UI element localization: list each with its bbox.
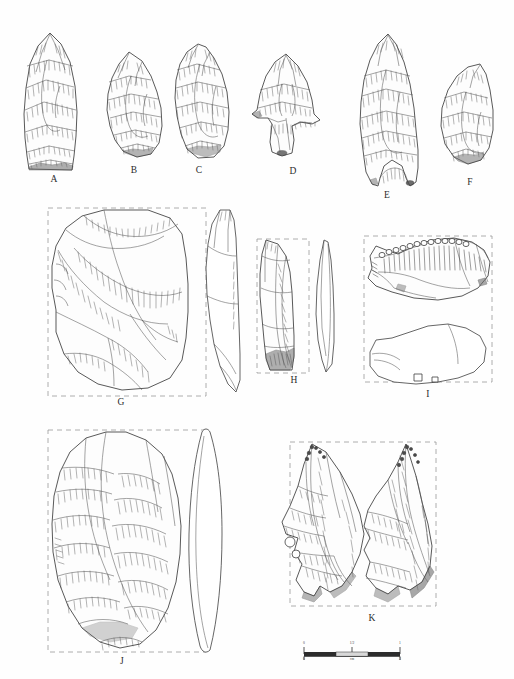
artifact-label-A: A <box>44 174 64 184</box>
artifact-drawing-E <box>352 32 428 192</box>
artifact-drawing-G <box>44 204 244 400</box>
scale-tick-top-0: 0 <box>297 641 311 645</box>
artifact-drawing-K <box>276 434 460 614</box>
artifact-label-I: I <box>418 389 438 399</box>
artifact-drawing-B <box>103 50 169 163</box>
scale-tick-top-1: 1 <box>393 641 407 645</box>
artifact-drawing-A <box>16 30 88 175</box>
artifact-label-J: J <box>112 656 132 666</box>
scale-unit-label: cm <box>342 657 362 661</box>
artifact-label-B: B <box>124 165 144 175</box>
artifact-drawing-J <box>44 424 224 660</box>
artifact-label-E: E <box>377 190 397 200</box>
artifact-label-D: D <box>283 166 303 176</box>
lithic-artifact-plate: A <box>0 0 514 679</box>
artifact-label-F: F <box>460 177 480 187</box>
artifact-drawing-D <box>248 52 326 166</box>
scale-bar: 0 1/2 1 0 3 cm <box>302 643 404 667</box>
scale-tick-bottom-3: 3 <box>393 657 407 661</box>
artifact-label-C: C <box>189 165 209 175</box>
artifact-label-G: G <box>111 397 131 407</box>
scale-tick-bottom-0: 0 <box>297 657 311 661</box>
artifact-drawing-H <box>248 236 344 378</box>
artifact-drawing-C <box>170 42 234 164</box>
scale-tick-top-half: 1/2 <box>345 641 359 645</box>
artifact-drawing-I <box>358 232 508 390</box>
artifact-label-K: K <box>362 613 382 623</box>
artifact-drawing-F <box>436 62 498 170</box>
artifact-label-H: H <box>284 375 304 385</box>
